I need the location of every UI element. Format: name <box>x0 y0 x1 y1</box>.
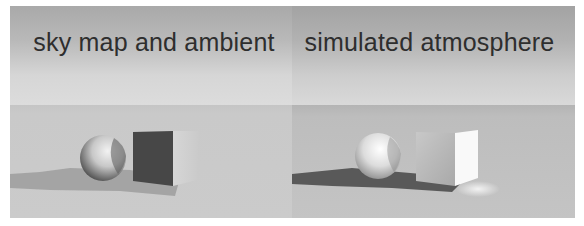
panel-caption: sky map and ambient <box>10 28 292 57</box>
panel-caption: simulated atmosphere <box>292 28 575 57</box>
render-panel-sky-map: sky map and ambient <box>10 6 292 218</box>
cube-side <box>173 131 199 186</box>
render-panel-simulated-atmosphere: simulated atmosphere <box>292 6 575 218</box>
cube-front <box>133 131 173 186</box>
cube-front <box>416 132 455 186</box>
cube-side <box>455 130 478 186</box>
